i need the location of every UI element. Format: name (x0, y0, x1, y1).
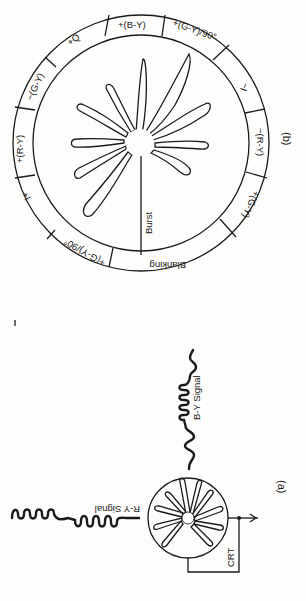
figure-a: R-Y Signal B-Y Signal CRT (a) (12, 350, 288, 572)
segment-label-plus-r-y: +(R-Y) (14, 135, 25, 163)
segment-label-i-plus: I+ (19, 190, 33, 203)
segment-label-plus-g-y: +(G-Y) (240, 189, 262, 220)
caption-b: (b) (281, 132, 293, 145)
segment-label-minus-r-y: −(R-Y) (255, 128, 266, 156)
segment-label-plus-g-y-90: +(G-Y)/90° (171, 17, 218, 43)
caption-a: (a) (276, 480, 288, 493)
segment-label-blanking: Blanking (150, 260, 186, 271)
figure-b: +(B-Y) +(G-Y)/90° −I −(R-Y) +(G-Y) Blank… (13, 15, 293, 271)
b-y-signal-label: B-Y Signal (191, 375, 202, 420)
segment-label-plus-q: +Q (65, 31, 82, 47)
crt-petals (154, 478, 224, 547)
segment-label-plus-b-y: +(B-Y) (118, 19, 146, 30)
segment-label-plus-g-y-90-lower: +(G-Y)/90° (62, 236, 107, 269)
r-y-signal-label: R-Y Signal (95, 504, 140, 515)
crt-label: CRT (225, 547, 236, 567)
segment-label-minus-i: −I (238, 81, 251, 92)
color-petal-diagram: +(B-Y) +(G-Y)/90° −I −(R-Y) +(G-Y) Blank… (0, 0, 306, 601)
burst-label: Burst (143, 211, 154, 234)
